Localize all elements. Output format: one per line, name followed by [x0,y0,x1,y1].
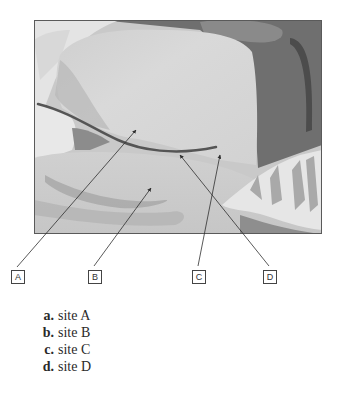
option-a[interactable]: a.site A [32,308,90,324]
label-a: A [11,270,25,284]
option-letter: c. [32,342,54,358]
photo-illustration [0,0,340,290]
label-c: C [192,270,206,284]
option-b[interactable]: b.site B [32,325,90,341]
option-text: site B [58,325,90,340]
option-text: site A [58,308,90,323]
option-d[interactable]: d.site D [32,359,91,375]
option-letter: d. [32,359,54,375]
option-letter: b. [32,325,54,341]
label-d: D [263,270,277,284]
labeled-figure: A B C D [0,0,340,290]
option-c[interactable]: c.site C [32,342,90,358]
photo [34,20,322,240]
option-letter: a. [32,308,54,324]
option-text: site D [58,359,91,374]
option-text: site C [58,342,90,357]
label-b: B [88,270,102,284]
